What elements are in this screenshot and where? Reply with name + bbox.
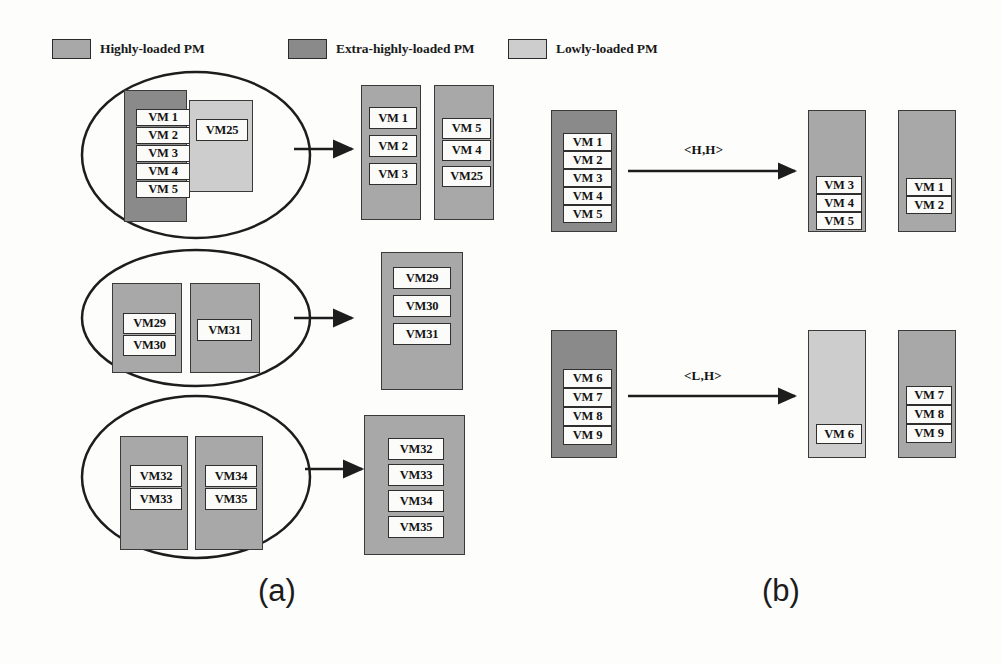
- vm-box[interactable]: VM 3: [136, 145, 190, 162]
- vm-box[interactable]: VM32: [388, 438, 444, 460]
- pm-result-b1-1[interactable]: VM 3 VM 4 VM 5: [808, 110, 866, 232]
- vm-box[interactable]: VM30: [123, 335, 176, 356]
- vm-box[interactable]: VM33: [130, 488, 182, 510]
- legend: Highly-loaded PM Extra-highly-loaded PM …: [0, 0, 1002, 70]
- vm-box[interactable]: VM25: [442, 166, 491, 187]
- transition-label-lh: <L,H>: [684, 368, 722, 384]
- pm-source-a1-lowly-loaded[interactable]: VM25: [189, 100, 253, 192]
- vm-box[interactable]: VM29: [123, 313, 176, 334]
- pm-result-b2-2[interactable]: VM 7 VM 8 VM 9: [898, 330, 956, 458]
- vm-box[interactable]: VM 3: [816, 176, 862, 194]
- vm-box[interactable]: VM31: [393, 323, 451, 345]
- vm-box[interactable]: VM 4: [816, 194, 862, 212]
- pm-result-a3[interactable]: VM32 VM33 VM34 VM35: [364, 415, 465, 555]
- figure-canvas: Highly-loaded PM Extra-highly-loaded PM …: [0, 0, 1002, 664]
- vm-box[interactable]: VM 6: [563, 369, 612, 388]
- pm-result-b1-2[interactable]: VM 1 VM 2: [898, 110, 956, 232]
- legend-swatch-lowly-loaded: [508, 39, 547, 59]
- vm-box[interactable]: VM 3: [563, 169, 612, 187]
- vm-box[interactable]: VM29: [393, 267, 451, 289]
- vm-box[interactable]: VM 5: [442, 118, 491, 139]
- vm-box[interactable]: VM 1: [369, 107, 417, 129]
- vm-box[interactable]: VM 1: [136, 109, 190, 126]
- vm-box[interactable]: VM 7: [563, 388, 612, 407]
- vm-box[interactable]: VM31: [197, 319, 252, 341]
- legend-item-highly-loaded: Highly-loaded PM: [52, 38, 205, 60]
- legend-item-lowly-loaded: Lowly-loaded PM: [508, 38, 658, 60]
- legend-item-extra-highly-loaded: Extra-highly-loaded PM: [288, 38, 474, 60]
- legend-swatch-extra-highly-loaded: [288, 39, 327, 59]
- pm-result-a1-1[interactable]: VM 1 VM 2 VM 3: [361, 85, 421, 220]
- vm-box[interactable]: VM 1: [906, 178, 952, 196]
- vm-box[interactable]: VM 2: [906, 196, 952, 214]
- vm-box[interactable]: VM 4: [442, 140, 491, 161]
- vm-box[interactable]: VM35: [388, 516, 444, 538]
- vm-box[interactable]: VM33: [388, 464, 444, 486]
- vm-box[interactable]: VM 5: [816, 212, 862, 230]
- vm-box[interactable]: VM34: [205, 465, 257, 487]
- vm-box[interactable]: VM 3: [369, 163, 417, 185]
- vm-box[interactable]: VM 2: [136, 127, 190, 144]
- vm-box[interactable]: VM 1: [563, 133, 612, 151]
- vm-box[interactable]: VM 8: [563, 407, 612, 426]
- pm-source-b1[interactable]: VM 1 VM 2 VM 3 VM 4 VM 5: [551, 110, 617, 232]
- transition-label-hh: <H,H>: [684, 142, 723, 158]
- pm-source-a2-1[interactable]: VM29 VM30: [112, 283, 182, 373]
- pm-source-a2-2[interactable]: VM31: [190, 283, 260, 373]
- vm-box[interactable]: VM 8: [906, 405, 952, 424]
- pm-result-b2-1[interactable]: VM 6: [808, 330, 866, 458]
- legend-label-extra-highly-loaded: Extra-highly-loaded PM: [336, 41, 474, 57]
- vm-box[interactable]: VM32: [130, 465, 182, 487]
- pm-result-a2[interactable]: VM29 VM30 VM31: [381, 252, 463, 390]
- vm-box[interactable]: VM35: [205, 488, 257, 510]
- vm-box[interactable]: VM25: [196, 119, 248, 141]
- legend-label-highly-loaded: Highly-loaded PM: [100, 41, 205, 57]
- vm-box[interactable]: VM 7: [906, 386, 952, 405]
- legend-label-lowly-loaded: Lowly-loaded PM: [556, 41, 658, 57]
- pm-source-b2[interactable]: VM 6 VM 7 VM 8 VM 9: [551, 330, 617, 458]
- pm-source-a1-extra-highly-loaded[interactable]: VM 1 VM 2 VM 3 VM 4 VM 5: [124, 90, 187, 222]
- pm-result-a1-2[interactable]: VM 5 VM 4 VM25: [434, 85, 494, 220]
- vm-box[interactable]: VM30: [393, 295, 451, 317]
- vm-box[interactable]: VM 5: [563, 205, 612, 223]
- vm-box[interactable]: VM 2: [369, 135, 417, 157]
- pm-source-a3-2[interactable]: VM34 VM35: [195, 436, 263, 550]
- vm-box[interactable]: VM 9: [906, 424, 952, 443]
- vm-box[interactable]: VM34: [388, 490, 444, 512]
- vm-box[interactable]: VM 9: [563, 426, 612, 445]
- vm-box[interactable]: VM 5: [136, 181, 190, 198]
- vm-box[interactable]: VM 4: [136, 163, 190, 180]
- vm-box[interactable]: VM 2: [563, 151, 612, 169]
- legend-swatch-highly-loaded: [52, 39, 91, 59]
- vm-box[interactable]: VM 4: [563, 187, 612, 205]
- panel-caption-b: (b): [762, 573, 800, 609]
- panel-caption-a: (a): [258, 573, 296, 609]
- pm-source-a3-1[interactable]: VM32 VM33: [120, 436, 188, 550]
- vm-box[interactable]: VM 6: [816, 424, 862, 444]
